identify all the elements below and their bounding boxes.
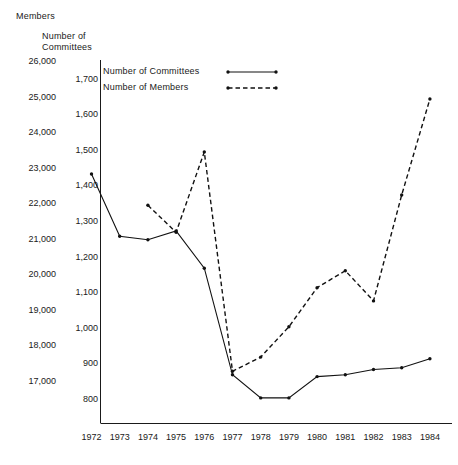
data-point [146, 238, 149, 241]
data-point [231, 370, 234, 373]
data-point [231, 373, 234, 376]
data-point [287, 396, 290, 399]
data-point [344, 269, 347, 272]
data-point [400, 366, 403, 369]
data-point [118, 235, 121, 238]
series-line-0 [92, 174, 430, 398]
data-point [259, 355, 262, 358]
series-committees [90, 172, 432, 399]
legend-sample-marker [274, 70, 277, 73]
data-point [315, 286, 318, 289]
data-point [400, 193, 403, 196]
data-point [372, 299, 375, 302]
series-line-1 [148, 99, 430, 371]
plot-area [0, 0, 458, 465]
legend-sample-marker [226, 70, 229, 73]
data-point [428, 357, 431, 360]
data-point [203, 150, 206, 153]
data-point [428, 97, 431, 100]
data-point [287, 325, 290, 328]
data-point [174, 231, 177, 234]
legend-sample-marker [226, 86, 229, 89]
data-point [146, 204, 149, 207]
data-point [315, 375, 318, 378]
legend-sample-marker [274, 86, 277, 89]
legend-line-samples [226, 70, 277, 89]
chart-container: Members Number ofCommittees 26,00025,000… [0, 0, 458, 465]
data-point [259, 396, 262, 399]
data-point [203, 267, 206, 270]
axis-lines [101, 60, 453, 424]
data-point [344, 373, 347, 376]
data-point [372, 368, 375, 371]
series-members [146, 97, 431, 373]
data-point [90, 172, 93, 175]
data-series-layer [90, 97, 432, 399]
